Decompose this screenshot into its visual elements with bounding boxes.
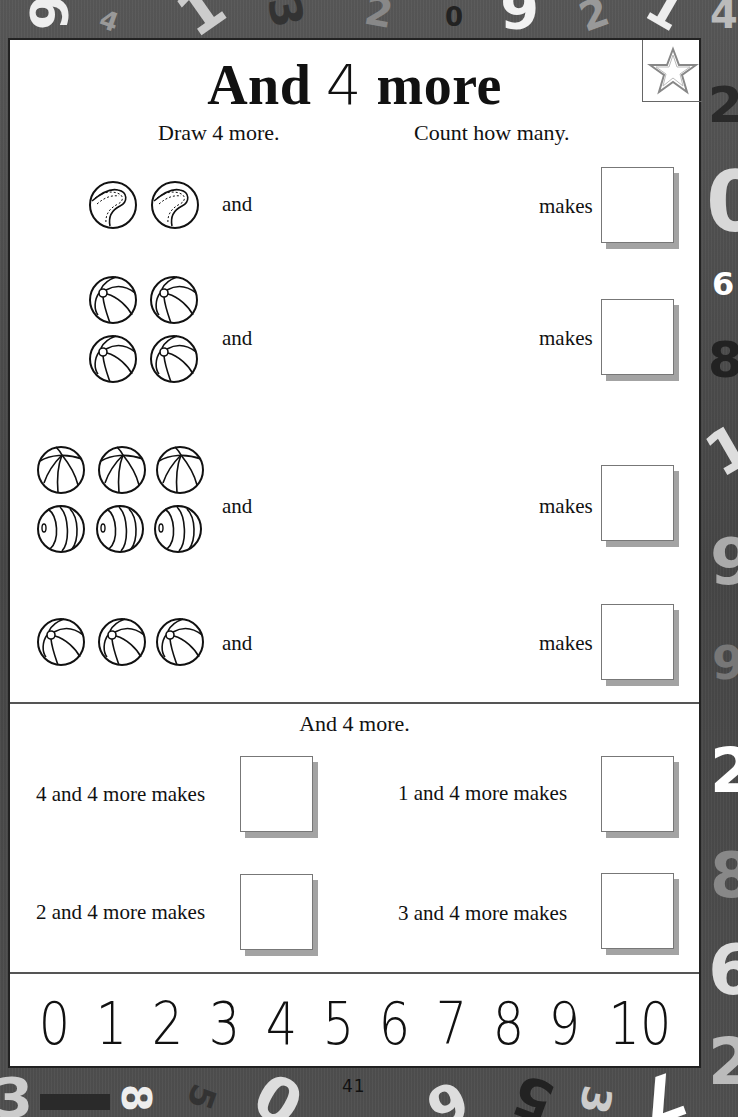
sentence-text: 1 and 4 more makes xyxy=(398,781,567,806)
bg-bar xyxy=(40,1094,110,1110)
number-7: 7 xyxy=(436,990,467,1058)
bg-digit: 3 xyxy=(0,1070,33,1117)
number-1: 1 xyxy=(95,990,126,1058)
and-label: and xyxy=(222,192,252,217)
number-8: 8 xyxy=(493,990,524,1058)
drawing-area[interactable] xyxy=(280,170,530,250)
bg-digit: 9 xyxy=(712,640,738,686)
striped-ball-icon xyxy=(36,504,86,554)
page-number: 41 xyxy=(342,1076,366,1096)
bg-digit: 5 xyxy=(182,1080,222,1114)
bg-digit: 1 xyxy=(696,414,738,487)
number-10: 10 xyxy=(609,990,672,1058)
beach-ball-icon xyxy=(88,275,138,325)
number-5: 5 xyxy=(322,990,353,1058)
bg-digit: 8 xyxy=(708,335,738,385)
bg-digit: 4 xyxy=(96,6,122,37)
bg-digit: 2 xyxy=(710,740,738,802)
answer-box[interactable] xyxy=(601,299,674,375)
and-label: and xyxy=(222,326,252,351)
number-2: 2 xyxy=(152,990,183,1058)
baseball-icon xyxy=(88,180,138,230)
beach-ball-icon xyxy=(97,617,147,667)
page-title: And 4 more xyxy=(10,52,699,117)
makes-label: makes xyxy=(539,631,593,656)
bg-digit: 6 xyxy=(712,268,734,300)
instruction-draw: Draw 4 more. xyxy=(158,120,280,146)
bg-digit: 7 xyxy=(631,1060,693,1117)
title-digit: 4 xyxy=(326,52,362,117)
bg-digit: 8 xyxy=(116,1084,156,1112)
numberline-divider xyxy=(10,972,699,974)
bg-digit: 3 xyxy=(574,1083,618,1117)
number-0: 0 xyxy=(39,990,70,1058)
number-4: 4 xyxy=(266,990,297,1058)
beach-ball-icon xyxy=(88,334,138,384)
sentence-text: 2 and 4 more makes xyxy=(36,900,205,925)
answer-box[interactable] xyxy=(240,874,313,950)
drawing-area[interactable] xyxy=(280,440,530,560)
beach-ball-icon xyxy=(97,445,147,495)
and-label: and xyxy=(222,631,252,656)
bg-digit: 6 xyxy=(708,935,738,1005)
answer-box[interactable] xyxy=(601,167,674,243)
makes-label: makes xyxy=(539,194,593,219)
bg-digit: 0 xyxy=(445,4,463,30)
title-text: more xyxy=(362,54,502,116)
bg-digit: 0 xyxy=(706,160,738,244)
makes-label: makes xyxy=(539,326,593,351)
bg-digit: 2 xyxy=(708,80,738,130)
answer-box[interactable] xyxy=(601,465,674,541)
bg-digit: 6 xyxy=(22,0,74,30)
answer-box[interactable] xyxy=(601,756,674,832)
striped-ball-icon xyxy=(153,504,203,554)
beach-ball-icon xyxy=(36,445,86,495)
drawing-area[interactable] xyxy=(280,610,530,690)
sentence-text: 3 and 4 more makes xyxy=(398,901,567,926)
beach-ball-icon xyxy=(155,445,205,495)
bg-digit: 4 xyxy=(710,0,738,34)
bg-digit: 6 xyxy=(500,0,539,36)
bg-digit: 8 xyxy=(710,845,738,907)
drawing-area[interactable] xyxy=(280,270,530,390)
baseball-icon xyxy=(150,180,200,230)
beach-ball-icon xyxy=(155,617,205,667)
answer-box[interactable] xyxy=(601,604,674,680)
bg-digit: 0 xyxy=(243,1063,311,1117)
answer-box[interactable] xyxy=(601,873,674,949)
sentence-text: 4 and 4 more makes xyxy=(36,782,205,807)
bg-digit: 2 xyxy=(708,1030,738,1094)
section-heading: And 4 more. xyxy=(10,711,699,737)
section-divider xyxy=(10,702,699,704)
bg-digit: 5 xyxy=(506,1065,562,1117)
beach-ball-icon xyxy=(149,275,199,325)
number-9: 9 xyxy=(549,990,580,1058)
bg-digit: 2 xyxy=(574,0,614,38)
beach-ball-icon xyxy=(36,617,86,667)
and-label: and xyxy=(222,494,252,519)
answer-box[interactable] xyxy=(240,756,313,832)
makes-label: makes xyxy=(539,494,593,519)
bg-digit: 6 xyxy=(420,1071,476,1117)
number-3: 3 xyxy=(209,990,240,1058)
beach-ball-icon xyxy=(149,334,199,384)
bg-digit: 2 xyxy=(362,0,396,34)
instruction-count: Count how many. xyxy=(414,120,570,146)
number-line: 0 1 2 3 4 5 6 7 8 9 10 xyxy=(10,984,699,1064)
striped-ball-icon xyxy=(95,504,145,554)
bg-digit: 3 xyxy=(261,0,310,31)
number-6: 6 xyxy=(379,990,410,1058)
title-text: And xyxy=(207,54,326,116)
worksheet-panel: And 4 more Draw 4 more. Count how many. xyxy=(8,38,701,1068)
bg-digit: 9 xyxy=(710,530,738,594)
bg-digit: 1 xyxy=(638,0,693,39)
